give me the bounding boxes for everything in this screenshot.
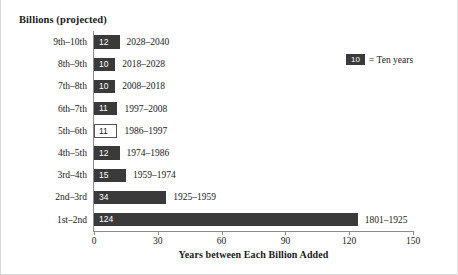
- bar-value-label: 12: [94, 38, 108, 47]
- x-axis-tick-label: 0: [92, 236, 97, 246]
- category-label: 3rd–4th: [57, 164, 87, 186]
- bar-value-label: 10: [94, 82, 108, 91]
- bar-range-label: 2028–2040: [120, 37, 170, 47]
- x-axis-line: [93, 231, 413, 232]
- bar-row: 3rd–4th151959–1974: [94, 164, 176, 186]
- x-axis-tick-label: 120: [342, 236, 356, 246]
- bar-row: 4th–5th121974–1986: [94, 142, 169, 164]
- category-label: 1st–2nd: [57, 209, 87, 231]
- x-axis-tick: [413, 231, 414, 235]
- bar-value-label: 12: [94, 149, 108, 158]
- bar-value-label: 11: [95, 127, 108, 136]
- x-axis-tick-label: 90: [281, 236, 291, 246]
- bar-row: 2nd–3rd341925–1959: [94, 186, 216, 208]
- bar-row: 6th–7th111997–2008: [94, 98, 167, 120]
- chart-figure: Billions (projected) 10 = Ten years 9th–…: [0, 0, 458, 275]
- bar: 11: [94, 124, 117, 138]
- x-axis-tick: [94, 231, 95, 235]
- x-axis-tick: [222, 231, 223, 235]
- x-axis-tick-label: 30: [153, 236, 163, 246]
- bar-row: 8th–9th102018–2028: [94, 53, 165, 75]
- bar: 11: [94, 102, 117, 116]
- plot-area: 9th–10th122028–20408th–9th102018–20287th…: [94, 31, 413, 231]
- category-label: 6th–7th: [58, 98, 87, 120]
- bar-range-label: 1959–1974: [126, 170, 176, 180]
- bar-range-label: 2008–2018: [115, 81, 165, 91]
- x-axis-tick-label: 60: [217, 236, 227, 246]
- bar-range-label: 1801–1925: [358, 215, 408, 225]
- bar: 124: [94, 213, 358, 227]
- x-axis-tick: [158, 231, 159, 235]
- category-label: 5th–6th: [58, 120, 87, 142]
- x-axis-tick: [285, 231, 286, 235]
- bar-value-label: 124: [94, 215, 113, 224]
- bar: 12: [94, 146, 120, 160]
- bar-range-label: 1997–2008: [117, 104, 167, 114]
- category-label: 7th–8th: [58, 75, 87, 97]
- x-axis-title: Years between Each Billion Added: [94, 249, 413, 260]
- bar-value-label: 34: [94, 193, 108, 202]
- category-label: 2nd–3rd: [55, 186, 87, 208]
- bar-row: 9th–10th122028–2040: [94, 31, 169, 53]
- bar: 34: [94, 191, 166, 205]
- bar: 10: [94, 58, 115, 72]
- bar-row: 7th–8th102008–2018: [94, 75, 165, 97]
- category-label: 4th–5th: [58, 142, 87, 164]
- chart-title: Billions (projected): [19, 14, 107, 25]
- bar-row: 1st–2nd1241801–1925: [94, 209, 407, 231]
- x-axis-tick-label: 150: [406, 236, 420, 246]
- category-label: 8th–9th: [58, 53, 87, 75]
- bar-range-label: 1925–1959: [166, 192, 216, 202]
- bar-value-label: 15: [94, 171, 108, 180]
- bar: 12: [94, 35, 120, 49]
- bar-range-label: 1974–1986: [120, 148, 170, 158]
- bar-range-label: 2018–2028: [115, 59, 165, 69]
- bar: 10: [94, 80, 115, 94]
- x-axis-tick: [349, 231, 350, 235]
- category-label: 9th–10th: [53, 31, 87, 53]
- bar: 15: [94, 169, 126, 183]
- bar-range-label: 1986–1997: [117, 126, 167, 136]
- bar-row: 5th–6th111986–1997: [94, 120, 167, 142]
- bar-value-label: 10: [94, 60, 108, 69]
- bar-value-label: 11: [94, 104, 108, 113]
